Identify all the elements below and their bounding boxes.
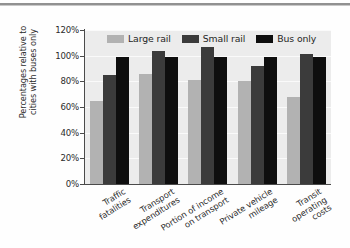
chart-figure: Percentages relative to cities with buse… [0,0,350,248]
bar [214,57,227,184]
bar [300,54,313,184]
bar-group [90,30,129,184]
bar [165,57,178,184]
y-axis-tick-label: 40% [46,128,79,138]
bar-group [188,30,227,184]
y-axis-tick-mark [80,133,84,134]
legend-item: Large rail [107,33,171,44]
bar-group [238,30,277,184]
y-axis-tick-label: 20% [46,153,79,163]
bar-groups [85,30,331,184]
y-axis-tick-mark [80,158,84,159]
bar [201,47,214,184]
bar [313,57,326,184]
bar-group [287,30,326,184]
y-axis-tick-label: 80% [46,76,79,86]
legend-swatch [107,35,124,43]
legend-item: Bus only [256,33,316,44]
bar [152,51,165,184]
bar [103,75,116,184]
x-axis-category-labels: Traffic fatalitiesTransport expenditures… [85,186,331,248]
legend-item: Small rail [182,33,245,44]
plot-area [85,30,331,184]
y-axis-tick-labels: 120%100%80%60%40%20%0% [46,24,79,190]
bar [90,101,103,184]
y-axis-tick-label: 100% [46,51,79,61]
bar-group [139,30,178,184]
y-axis-tick-mark [80,56,84,57]
y-axis-tick-mark [80,30,84,31]
x-axis-line [84,184,331,185]
legend-swatch [182,35,199,43]
y-axis-tick-mark [80,107,84,108]
bar [251,66,264,184]
bar [287,97,300,184]
y-axis-tick-label: 0% [46,179,79,189]
y-axis-tick-mark [80,81,84,82]
bar [116,57,129,184]
y-axis-tick-label: 60% [46,102,79,112]
legend-label: Large rail [128,33,171,44]
bar [264,57,277,184]
y-axis-tick-mark [80,184,84,185]
bar [238,81,251,184]
y-axis-tick-label: 120% [46,25,79,35]
chart-legend: Large railSmall railBus only [107,33,316,44]
y-axis-title: Percentages relative to cities with buse… [8,0,48,147]
bar [188,80,201,184]
bar [139,74,152,184]
page-top-rule-shadow [0,5,350,6]
y-axis-title-text: Percentages relative to cities with buse… [18,26,39,118]
legend-label: Bus only [277,33,316,44]
legend-label: Small rail [203,33,245,44]
legend-swatch [256,35,273,43]
